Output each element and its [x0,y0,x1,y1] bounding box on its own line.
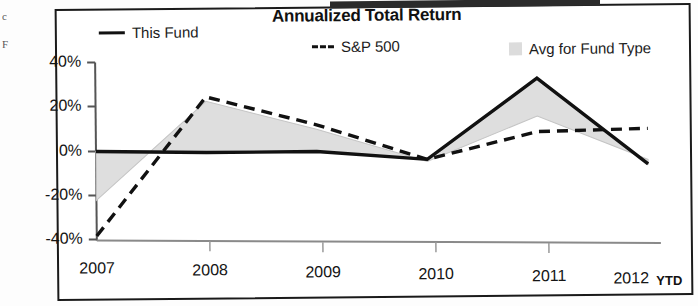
x-axis-label: 2007 [63,259,131,278]
chart-container: Annualized Total Return This Fund S&P 50… [0,0,698,306]
x-axis-label: 2009 [289,263,357,282]
x-axis-label: 2012 [597,269,665,288]
x-axis-label: 2008 [176,261,244,280]
x-axis-label: 2011 [515,267,583,286]
x-axis-ytd-note: YTD [656,273,682,288]
x-axis-label: 2010 [402,265,470,284]
x-axis-labels: 2007 2008 2009 2010 2011 2012 YTD [0,0,698,306]
